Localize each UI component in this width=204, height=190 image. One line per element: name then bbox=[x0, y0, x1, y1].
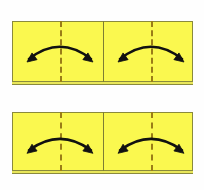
paper-edge-line bbox=[12, 82, 193, 85]
fold-crease-right bbox=[151, 112, 153, 171]
folding-diagram bbox=[0, 0, 204, 190]
fold-crease-left bbox=[60, 112, 62, 171]
paper-panel-bottom bbox=[12, 112, 193, 171]
center-seam-line bbox=[103, 112, 104, 171]
center-seam-line bbox=[103, 21, 104, 82]
paper-panel-top bbox=[12, 21, 193, 82]
fold-crease-right bbox=[151, 21, 153, 82]
fold-crease-left bbox=[60, 21, 62, 82]
paper-edge-line bbox=[12, 171, 193, 174]
